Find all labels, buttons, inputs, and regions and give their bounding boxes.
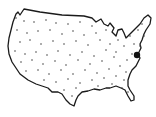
map-dot (33, 21, 35, 23)
map-dot (131, 53, 133, 55)
map-dot (137, 29, 139, 31)
map-dot (31, 59, 33, 61)
map-dot (123, 45, 125, 47)
map-dot (93, 55, 95, 57)
map-dot (72, 73, 74, 75)
map-dot (119, 65, 121, 67)
map-dot (24, 53, 26, 55)
map-dot (99, 39, 101, 41)
map-dot (95, 32, 97, 34)
map-dot (71, 95, 73, 97)
map-dot (79, 82, 81, 84)
map-dot (123, 79, 125, 81)
map-dot (143, 35, 145, 37)
map-dot (52, 40, 54, 42)
map-dot (97, 85, 99, 87)
map-dot (101, 60, 103, 62)
map-dot (129, 35, 131, 37)
map-dot (109, 43, 111, 45)
map-dot (115, 75, 117, 77)
map-dot (23, 20, 25, 22)
map-dot (77, 59, 79, 61)
map-dot (37, 30, 39, 32)
map-dot (49, 29, 51, 31)
highlight-marker[interactable] (134, 52, 140, 58)
map-dot (83, 34, 85, 36)
map-dot (61, 33, 63, 35)
map-dot (25, 70, 27, 72)
map-dot (55, 81, 57, 83)
map-dot (15, 17, 17, 19)
map-dot (127, 91, 129, 93)
map-dot (46, 54, 48, 56)
map-dot (16, 29, 18, 31)
map-dot (43, 79, 45, 81)
map-dot (29, 39, 31, 41)
map-dot (20, 61, 22, 63)
map-dot (63, 43, 65, 45)
us-outline (8, 9, 151, 106)
map-dot (125, 71, 127, 73)
us-map-svg (0, 0, 156, 117)
map-dot (139, 45, 141, 47)
us-map (0, 0, 156, 117)
map-dot (91, 25, 93, 27)
map-dot (26, 32, 28, 34)
map-dot (67, 78, 69, 80)
map-dot (54, 60, 56, 62)
map-dot (67, 23, 69, 25)
map-dot (105, 49, 107, 51)
map-dot (103, 77, 105, 79)
map-dot (48, 73, 50, 75)
map-dot (63, 89, 65, 91)
map-dot (65, 64, 67, 66)
map-dot (84, 69, 86, 71)
map-dot (81, 51, 83, 53)
map-dot (55, 22, 57, 24)
map-dot (37, 69, 39, 71)
map-dot (113, 56, 115, 58)
map-dot (87, 44, 89, 46)
map-dot (75, 40, 77, 42)
map-dot (117, 39, 119, 41)
map-dot (19, 41, 21, 43)
map-dot (40, 43, 42, 45)
map-dot (115, 51, 117, 53)
map-dot (89, 63, 91, 65)
map-dot (69, 54, 71, 56)
map-dot (14, 50, 16, 52)
map-dot (133, 43, 135, 45)
map-dot (60, 69, 62, 71)
map-dot (108, 68, 110, 70)
map-dot (105, 29, 107, 31)
map-dot (75, 87, 77, 89)
map-dot (45, 19, 47, 21)
map-dot (57, 50, 59, 52)
map-dot (96, 72, 98, 74)
map-dot (79, 21, 81, 23)
map-dot (126, 59, 128, 61)
map-dot (42, 63, 44, 65)
map-dot (141, 23, 143, 25)
map-dot (111, 83, 113, 85)
map-dot (35, 51, 37, 53)
map-dot (121, 87, 123, 89)
map-dot (91, 79, 93, 81)
map-dot (72, 30, 74, 32)
